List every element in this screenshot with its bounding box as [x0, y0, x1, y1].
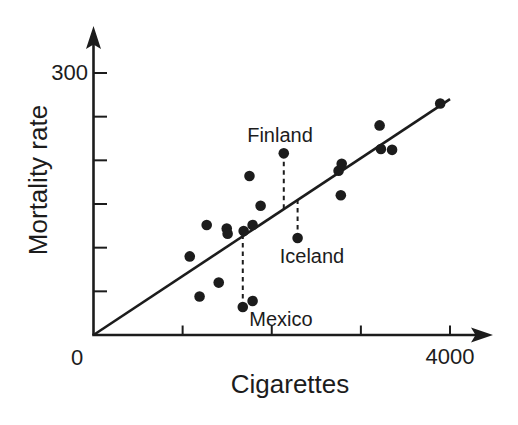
origin-label: 0 [57, 346, 97, 370]
y-axis-title: Mortality rate [24, 105, 53, 255]
scatter-figure: 300 0 4000 Cigarettes Mortality rate Fin… [0, 0, 518, 425]
x-tick-label-4000: 4000 [400, 345, 500, 369]
point-label-mexico: Mexico [221, 308, 341, 330]
point-label-iceland: Iceland [252, 245, 372, 267]
x-axis-title: Cigarettes [190, 370, 390, 399]
point-label-finland: Finland [220, 124, 340, 146]
y-tick-label-300: 300 [28, 61, 88, 85]
